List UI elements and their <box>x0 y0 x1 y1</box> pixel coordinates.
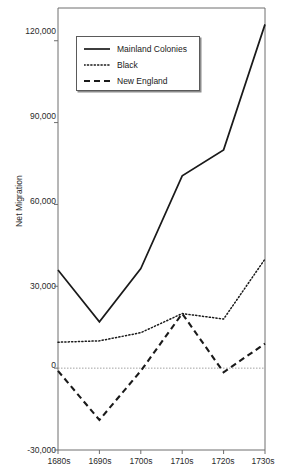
legend-item-new-england: New England <box>84 74 168 88</box>
legend-swatch-solid-icon <box>84 44 110 54</box>
legend-swatch-dashed-icon <box>84 76 110 86</box>
legend-item-mainland-colonies: Mainland Colonies <box>84 42 187 56</box>
legend-label: New England <box>117 76 168 86</box>
y-tick-marks <box>54 41 58 450</box>
line-chart: Net Migration 120,000 90,000 60,000 30,0… <box>0 0 285 471</box>
legend-swatch-dotted-icon <box>84 60 110 70</box>
series-line-new-england <box>58 314 265 420</box>
legend-label: Black <box>117 60 138 70</box>
legend: Mainland Colonies Black New England <box>76 36 200 91</box>
x-tick-marks <box>58 450 265 454</box>
series-line-black <box>58 259 265 342</box>
legend-label: Mainland Colonies <box>117 44 187 54</box>
legend-item-black: Black <box>84 58 138 72</box>
